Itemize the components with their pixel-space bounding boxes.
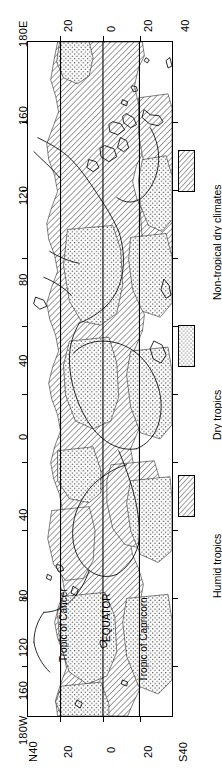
legend-label-dry-tropics: Dry tropics <box>212 390 222 440</box>
latitude-tick-label-bottom-20n: 20 <box>63 745 74 758</box>
tick-right-160e <box>173 122 178 123</box>
latitude-tick-label-bottom-20s: 20 <box>143 745 154 758</box>
tick-bottom-20s <box>140 717 141 722</box>
tick-bottom-20n <box>60 717 61 722</box>
latitude-tick-label-top-0: 0 <box>106 26 117 32</box>
legend-swatch-non-tropical-dry-climates <box>178 150 195 192</box>
map-plot-area: Tropic of Cancer EQUATOR Tropic of Capri… <box>27 41 173 717</box>
annotation-equator: EQUATOR <box>102 593 112 642</box>
climate-map-figure: 180E 160 120 80 40 0 40 80 120 160 180W … <box>0 0 222 773</box>
latitude-tick-label-top-20s: 20 <box>143 19 154 32</box>
latitude-tick-label-bottom-n40: N40 <box>28 741 39 762</box>
legend-swatch-dry-tropics <box>178 325 195 367</box>
latitude-tick-label-bottom-s40: S40 <box>178 742 189 762</box>
tick-bottom-0 <box>103 717 104 722</box>
annotation-tropic-of-capricorn: Tropic of Capricorn <box>139 597 149 682</box>
map-graphics <box>28 42 172 716</box>
map-legend: Non-tropical dry climates Dry tropics <box>176 150 222 630</box>
tick-right-0 <box>173 666 178 667</box>
legend-swatch-humid-tropics <box>178 475 195 517</box>
latitude-tick-label-top-20n: 20 <box>63 19 74 32</box>
latitude-tick-label-bottom-0: 0 <box>106 747 117 753</box>
legend-label-non-tropical-dry-climates: Non-tropical dry climates <box>212 184 222 300</box>
latitude-tick-label-top-40s: 40 <box>180 19 191 32</box>
legend-label-humid-tropics: Humid tropics <box>212 534 222 598</box>
annotation-tropic-of-cancer: Tropic of Cancer <box>59 588 69 662</box>
